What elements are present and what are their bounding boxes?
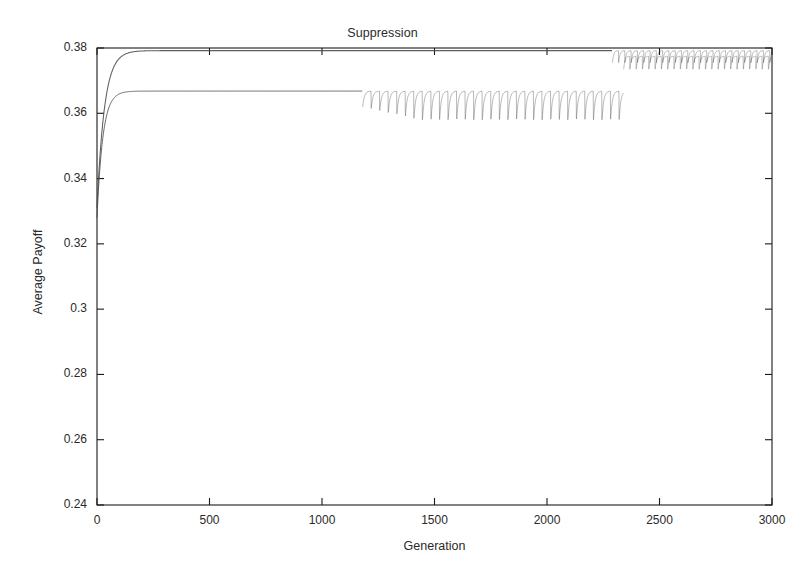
upper-run-curve-steady — [97, 51, 612, 208]
lower-run-curve-oscillation — [363, 91, 624, 120]
lower-run-curve-steady — [97, 91, 362, 218]
lower-run-curve-merged — [624, 56, 772, 69]
axis-ticks — [97, 48, 772, 505]
plot-area — [0, 0, 803, 580]
axes-frame — [97, 48, 772, 505]
figure-canvas: Suppression Average Payoff Generation 0.… — [0, 0, 803, 580]
data-curves — [97, 51, 772, 218]
